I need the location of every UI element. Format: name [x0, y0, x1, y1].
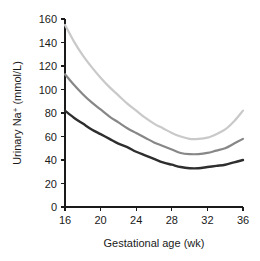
- y-axis-title: Urinary Na+ (mmol/L): [11, 61, 24, 165]
- series-line-lower-percentile: [65, 111, 243, 169]
- y-tick-label: 80: [45, 107, 57, 119]
- y-axis-title-prefix: Urinary Na: [11, 111, 23, 164]
- y-tick-label: 20: [45, 178, 57, 190]
- data-series-group: [65, 25, 243, 168]
- y-tick-label: 0: [51, 201, 57, 213]
- series-line-upper-percentile: [65, 25, 243, 139]
- x-tick-label: 32: [201, 214, 213, 226]
- y-tick-label: 40: [45, 154, 57, 166]
- x-axis-title: Gestational age (wk): [104, 237, 205, 249]
- line-chart-canvas: 020406080100120140160 162024283236 Gesta…: [0, 0, 260, 261]
- svg-text:Urinary Na+ (mmol/L): Urinary Na+ (mmol/L): [11, 61, 24, 165]
- x-tick-label: 36: [237, 214, 249, 226]
- series-line-median-percentile: [65, 74, 243, 154]
- y-tick-label: 120: [39, 60, 57, 72]
- y-axis-tick-labels: 020406080100120140160: [39, 13, 57, 213]
- x-tick-label: 16: [59, 214, 71, 226]
- x-tick-label: 20: [94, 214, 106, 226]
- x-tick-label: 28: [166, 214, 178, 226]
- x-axis-tick-labels: 162024283236: [59, 214, 249, 226]
- y-tick-label: 160: [39, 13, 57, 25]
- y-axis-group: 020406080100120140160: [39, 13, 65, 213]
- x-tick-label: 24: [130, 214, 142, 226]
- y-tick-label: 60: [45, 131, 57, 143]
- x-axis-group: 162024283236: [59, 207, 249, 226]
- y-tick-label: 100: [39, 84, 57, 96]
- chart-figure: 020406080100120140160 162024283236 Gesta…: [0, 0, 260, 261]
- y-tick-label: 140: [39, 37, 57, 49]
- y-axis-title-suffix: (mmol/L): [11, 61, 23, 107]
